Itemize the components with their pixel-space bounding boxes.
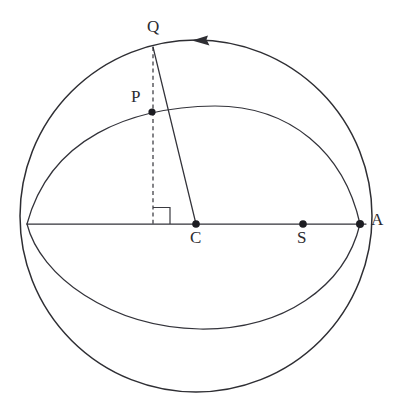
orbit-ellipse-upper-arc xyxy=(27,106,360,224)
radius-q-to-c xyxy=(153,47,196,224)
geometry-figure: Q P C S A xyxy=(0,0,404,403)
figure-canvas xyxy=(0,0,404,403)
outline-circle xyxy=(20,40,372,392)
point-p-label: P xyxy=(131,88,140,105)
point-s-label: S xyxy=(297,229,306,246)
point-q-label: Q xyxy=(147,18,159,35)
point-a-dot xyxy=(356,220,364,228)
point-s-dot xyxy=(299,220,307,228)
orbit-direction-arrow-icon xyxy=(192,36,210,46)
right-angle-square xyxy=(153,208,170,225)
point-c-dot xyxy=(192,220,200,228)
point-a-label: A xyxy=(371,211,383,228)
point-c-label: C xyxy=(190,229,201,246)
point-p-dot xyxy=(148,108,155,115)
